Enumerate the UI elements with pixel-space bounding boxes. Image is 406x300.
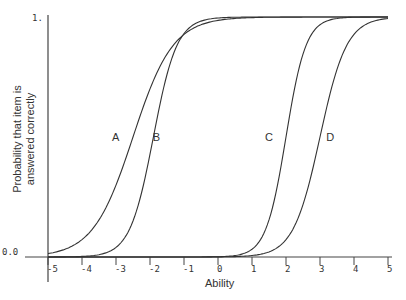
- curves: [48, 17, 388, 257]
- y-tick-label: 1.: [32, 13, 43, 23]
- icc-chart: -5-4-3-2-10123450.01. ABCD: [0, 0, 406, 300]
- curve-b: [48, 17, 388, 257]
- curve-a: [48, 17, 388, 254]
- x-tick-label: 2: [285, 264, 290, 274]
- x-tick-label: 3: [319, 264, 324, 274]
- y-axis-label-line2: answered correctly: [24, 39, 37, 239]
- curve-label-c: C: [265, 131, 273, 143]
- curve-label-a: A: [112, 131, 120, 143]
- x-tick-label: 4: [353, 264, 358, 274]
- x-tick-label: 0: [217, 264, 222, 274]
- axes: -5-4-3-2-10123450.01.: [2, 13, 392, 282]
- x-tick-label: 5: [387, 264, 392, 274]
- x-tick-label: -3: [115, 264, 126, 274]
- curve-label-d: D: [326, 131, 334, 143]
- x-tick-label: -5: [47, 264, 58, 274]
- curve-label-b: B: [153, 131, 160, 143]
- x-tick-label: -1: [183, 264, 194, 274]
- y-tick-label: 0.0: [2, 247, 18, 257]
- curve-c: [48, 17, 388, 257]
- curve-d: [48, 19, 388, 258]
- x-axis-label: Ability: [205, 277, 234, 289]
- x-tick-label: -4: [81, 264, 92, 274]
- labels: ABCD: [112, 131, 334, 143]
- y-axis-label-line1: Probability that item is: [11, 39, 24, 239]
- x-tick-label: 1: [251, 264, 256, 274]
- x-tick-label: -2: [149, 264, 160, 274]
